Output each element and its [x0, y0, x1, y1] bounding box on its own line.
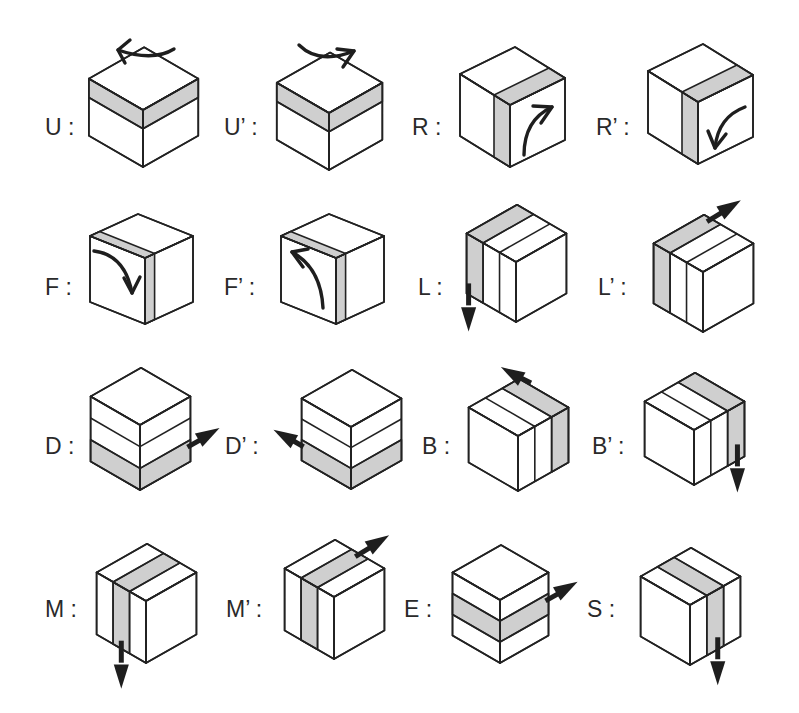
cube-L-prime [654, 200, 754, 332]
move-label-14: E : [404, 598, 432, 621]
move-label-1: U’ : [224, 116, 258, 139]
cube-D-prime [273, 370, 401, 489]
arrow-icon [546, 582, 578, 601]
move-label-6: L : [418, 276, 443, 299]
arrow-icon [355, 535, 389, 556]
cube-notation-diagram: U :U’ :R :R’ :F :F’ :L :L’ :D :D’ :B :B’… [0, 0, 799, 713]
cube-M [97, 544, 197, 689]
cube-M-prime [285, 535, 390, 659]
move-label-9: D’ : [225, 435, 259, 458]
cube-F-prime [281, 214, 384, 324]
arrow-icon [273, 430, 303, 449]
move-label-7: L’ : [598, 276, 627, 299]
move-label-12: M : [45, 598, 77, 621]
cube-U [89, 40, 198, 167]
move-label-15: S : [587, 598, 615, 621]
move-label-11: B’ : [592, 435, 624, 458]
move-label-5: F’ : [224, 276, 255, 299]
cube-L [461, 205, 566, 332]
cube-D [91, 368, 220, 490]
cube-B-prime [645, 373, 745, 493]
move-label-4: F : [45, 276, 72, 299]
cube-R [460, 47, 565, 167]
cube-B [469, 367, 569, 491]
move-label-2: R : [412, 116, 441, 139]
move-label-0: U : [45, 116, 74, 139]
arrow-icon [187, 428, 219, 447]
cube-R-prime [648, 44, 753, 164]
cube-F [90, 214, 193, 324]
move-label-3: R’ : [596, 116, 630, 139]
cubes-canvas [0, 0, 799, 713]
arrow-icon [707, 200, 741, 221]
move-label-8: D : [45, 435, 74, 458]
cube-E [453, 545, 578, 663]
cube-U-prime [277, 45, 383, 170]
cube-S [641, 548, 741, 685]
arrow-icon [501, 367, 531, 386]
move-label-10: B : [422, 435, 450, 458]
move-label-13: M’ : [226, 598, 262, 621]
